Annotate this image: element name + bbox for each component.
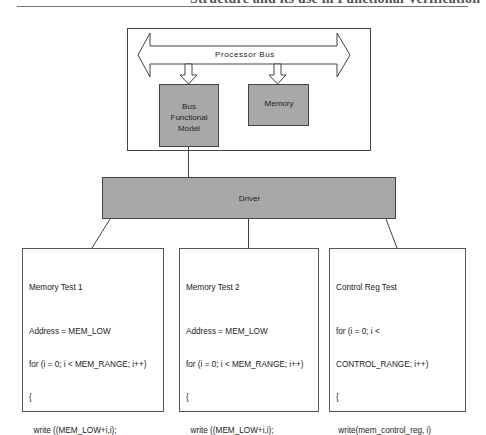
control-reg-test-title: Control Reg Test [336,282,465,293]
memory-test-2-box: Memory Test 2 Address = MEM_LOW for (i =… [179,248,319,412]
code-line: { [29,392,163,403]
code-line: write ((MEM_LOW+i,i); [186,425,318,435]
memory-test-1-box: Memory Test 1 Address = MEM_LOW for (i =… [22,248,164,412]
code-line: Address = MEM_LOW [186,326,318,337]
driver-label: Driver [103,193,396,204]
code-line: for (i = 0; i < MEM_RANGE; i++) [186,359,318,370]
code-line: for (i = 0; i < MEM_RANGE; i++) [29,359,163,370]
control-reg-test-box: Control Reg Test for (i = 0; i < CONTROL… [329,248,466,412]
bfm-label: Bus Functional Model [160,101,218,134]
driver-test1-connector [92,219,110,248]
memory-label: Memory [249,98,309,109]
code-line: CONTROL_RANGE; i++) [336,359,465,370]
bfm-label-line3: Model [160,123,218,134]
code-line: write ((MEM_LOW+i,i); [29,425,163,435]
code-line: write(mem_control_reg, i) [336,425,465,435]
memory-test-1-title: Memory Test 1 [29,282,163,293]
code-line: { [336,392,465,403]
driver-test3-connector [386,219,397,248]
memory-test-2-title: Memory Test 2 [186,282,318,293]
code-line: { [186,392,318,403]
code-line: for (i = 0; i < [336,326,465,337]
bfm-label-line1: Bus [160,101,218,112]
processor-bus-label: Processor Bus [190,49,300,60]
code-line: Address = MEM_LOW [29,326,163,337]
bfm-label-line2: Functional [160,112,218,123]
